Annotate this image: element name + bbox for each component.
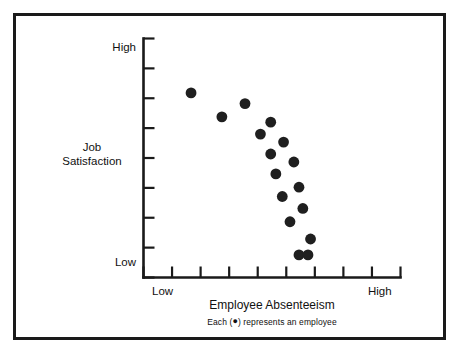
caption-prefix: Each ( [207, 317, 232, 327]
y-axis-title-line2: Satisfaction [44, 155, 140, 169]
figure-container: Job Satisfaction High Low Low High Emplo… [0, 0, 462, 360]
figure-caption: Each (●) represents an employee [143, 316, 401, 327]
y-axis-high-tick-label: High [92, 41, 136, 55]
y-axis-low-tick-label: Low [92, 256, 136, 270]
caption-suffix: ) represents an employee [238, 317, 337, 327]
y-axis-title: Job Satisfaction [44, 141, 140, 168]
x-axis-title: Employee Absenteeism [143, 298, 401, 312]
x-axis-low-tick-label: Low [152, 285, 173, 299]
y-axis-title-line1: Job [44, 141, 140, 155]
x-axis-high-tick-label: High [368, 285, 392, 299]
